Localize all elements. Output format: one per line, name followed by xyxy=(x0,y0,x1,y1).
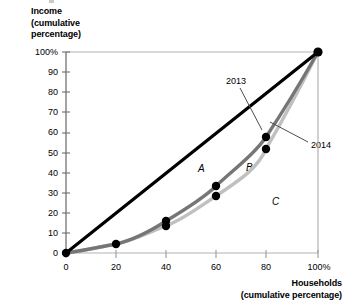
marker-endpoint xyxy=(313,47,322,56)
marker-2014-40 xyxy=(162,222,170,230)
marker-origin xyxy=(62,249,70,257)
plot-area xyxy=(0,0,348,305)
marker-2014-60 xyxy=(212,192,220,200)
line-of-equality xyxy=(66,52,318,253)
lorenz-curve-figure: Income (cumulative percentage) Household… xyxy=(0,0,348,305)
marker-2014-80 xyxy=(262,145,270,153)
marker-2013-60 xyxy=(212,182,220,190)
marker-2013-20 xyxy=(112,240,120,248)
marker-2013-80 xyxy=(262,133,270,141)
leader-line-2013 xyxy=(240,88,262,130)
x-tick-marks xyxy=(66,250,318,258)
